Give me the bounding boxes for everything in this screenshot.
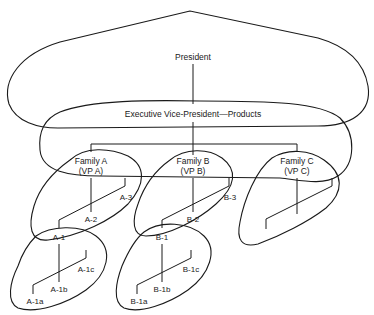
node-family-a-vp: (VP A) xyxy=(79,166,104,176)
node-president: President xyxy=(175,52,212,62)
node-family-c-vp: (VP C) xyxy=(284,166,310,176)
node-b1a: B-1a xyxy=(131,297,148,306)
node-a1a: A-1a xyxy=(27,297,44,306)
node-evp: Executive Vice-President—Products xyxy=(125,109,261,119)
node-a2: A-2 xyxy=(85,215,98,224)
node-a1: A-1 xyxy=(53,233,66,242)
edge-family-c-bus xyxy=(266,178,332,229)
node-family-b-name: Family B xyxy=(176,156,209,166)
node-b1: B-1 xyxy=(156,233,169,242)
node-a1b: A-1b xyxy=(51,285,68,294)
node-family-b-vp: (VP B) xyxy=(181,166,206,176)
node-a1c: A-1c xyxy=(78,265,94,274)
node-b2: B-2 xyxy=(187,215,200,224)
node-family-a-name: Family A xyxy=(75,156,108,166)
org-diagram: President Executive Vice-President—Produ… xyxy=(0,0,374,315)
node-family-c-name: Family C xyxy=(280,156,314,166)
node-b1c: B-1c xyxy=(183,265,199,274)
node-b3: B-3 xyxy=(224,193,237,202)
node-a3: A-3 xyxy=(120,193,133,202)
node-b1b: B-1b xyxy=(154,285,171,294)
